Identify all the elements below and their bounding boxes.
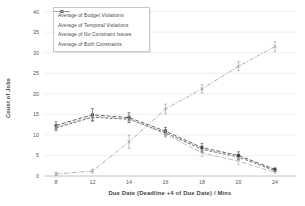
x-tick-label: 12 bbox=[90, 179, 96, 185]
legend-marker-icon bbox=[54, 8, 70, 15]
x-tick-label: 16 bbox=[163, 179, 169, 185]
y-tick-label: 40 bbox=[33, 9, 39, 15]
y-tick-label: 0 bbox=[36, 173, 39, 179]
legend-label: Average of Both Constraints bbox=[58, 42, 122, 47]
line-chart-canvas: 05101520253035408121416182024 bbox=[0, 0, 305, 206]
series-line-3 bbox=[56, 116, 275, 172]
marker-square bbox=[201, 146, 204, 149]
y-tick-label: 15 bbox=[33, 111, 39, 117]
x-tick-label: 14 bbox=[126, 179, 132, 185]
legend-item-3: Average of Both Constraints bbox=[58, 40, 145, 50]
x-axis-title: Due Date (Deadline +4 of Due Date) / Min… bbox=[44, 190, 296, 196]
x-tick-label: 24 bbox=[272, 179, 278, 185]
legend-label: Average of Temporal Violations bbox=[58, 23, 128, 28]
y-tick-label: 35 bbox=[33, 29, 39, 35]
y-tick-label: 5 bbox=[36, 152, 39, 158]
legend-item-0: Average of Budget Violations bbox=[58, 11, 145, 21]
chart-legend: Average of Budget ViolationsAverage of T… bbox=[53, 7, 150, 52]
chart-container: 05101520253035408121416182024 Count of J… bbox=[0, 0, 305, 206]
legend-item-1: Average of Temporal Violations bbox=[58, 21, 145, 31]
y-tick-label: 20 bbox=[33, 91, 39, 97]
x-tick-label: 20 bbox=[236, 179, 242, 185]
y-tick-label: 25 bbox=[33, 70, 39, 76]
y-axis-title: Count of Jobs bbox=[5, 63, 11, 133]
x-tick-label: 8 bbox=[55, 179, 58, 185]
y-tick-label: 10 bbox=[33, 132, 39, 138]
marker-square bbox=[274, 168, 277, 171]
series-line-1 bbox=[56, 115, 275, 170]
legend-item-2: Average of No Constraint Issues bbox=[58, 30, 145, 40]
legend-label: Average of No Constraint Issues bbox=[58, 32, 131, 37]
marker-square bbox=[237, 154, 240, 157]
x-tick-label: 18 bbox=[199, 179, 205, 185]
y-tick-label: 30 bbox=[33, 50, 39, 56]
